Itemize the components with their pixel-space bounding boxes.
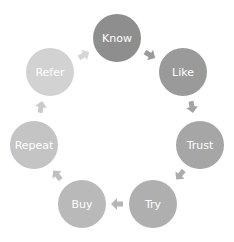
arrow-try-to-buy-icon (111, 198, 123, 210)
arrow-repeat-to-refer-icon (34, 100, 48, 114)
node-refer: Refer (26, 48, 74, 96)
arrow-trust-to-try-icon (172, 167, 189, 184)
arrow-like-to-trust-icon (185, 100, 199, 114)
node-label: Buy (71, 198, 92, 211)
node-label: Trust (187, 139, 214, 152)
node-label: Refer (35, 66, 64, 79)
node-label: Like (172, 66, 194, 79)
arrow-refer-to-know-icon (76, 47, 92, 63)
node-know: Know (93, 14, 141, 62)
node-trust: Trust (176, 121, 224, 169)
cycle-diagram: Know Like Trust Try Buy Repeat Refer (0, 0, 234, 242)
node-label: Repeat (15, 139, 54, 152)
arrow-buy-to-repeat-icon (49, 167, 66, 184)
node-buy: Buy (58, 180, 106, 228)
node-label: Know (102, 32, 132, 45)
node-like: Like (159, 48, 207, 96)
arrow-know-to-like-icon (142, 47, 158, 63)
node-try: Try (129, 180, 177, 228)
node-label: Try (145, 198, 161, 211)
node-repeat: Repeat (10, 121, 58, 169)
